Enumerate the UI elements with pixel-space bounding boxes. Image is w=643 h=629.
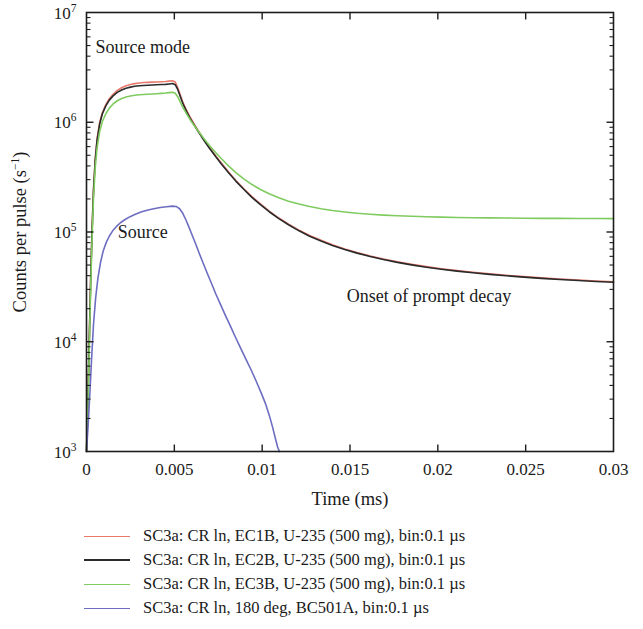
legend-item-label: SC3a: CR ln, EC3B, U-235 (500 mg), bin:0… [143,574,465,594]
x-tick-labels: 00.0050.010.0150.020.0250.03 [82,460,628,479]
legend-item[interactable]: SC3a: CR ln, 180 deg, BC501A, bin:0.1 µs [0,596,643,620]
series-line-3 [87,92,614,451]
series-line-4 [87,206,280,451]
legend-item[interactable]: SC3a: CR ln, EC1B, U-235 (500 mg), bin:0… [0,524,643,548]
y-tick-labels: 103104105106107 [54,2,77,462]
legend-item-label: SC3a: CR ln, EC2B, U-235 (500 mg), bin:0… [143,550,465,570]
series-line-1 [87,81,614,452]
y-tick-label: 107 [54,2,77,23]
x-tick-label: 0.02 [423,460,453,479]
legend-color-swatch [84,559,130,561]
annotation-3: Onset of prompt decay [347,286,511,306]
chart-plot: 00.0050.010.0150.020.0250.03 10310410510… [0,0,643,510]
x-tick-label: 0.005 [155,460,193,479]
y-axis-title: Counts per pulse (s−1) [9,152,31,313]
figure-container: 00.0050.010.0150.020.0250.03 10310410510… [0,0,643,629]
legend-item[interactable]: SC3a: CR ln, EC2B, U-235 (500 mg), bin:0… [0,548,643,572]
legend-color-swatch [84,536,130,537]
x-tick-label: 0.025 [507,460,545,479]
legend-item-label: SC3a: CR ln, EC1B, U-235 (500 mg), bin:0… [143,526,465,546]
y-tick-label: 105 [54,221,77,242]
x-tick-label: 0.015 [331,460,369,479]
plot-annotations: Source modeSourceOnset of prompt decay [95,37,511,306]
chart-legend: SC3a: CR ln, EC1B, U-235 (500 mg), bin:0… [0,524,643,629]
annotation-1: Source mode [95,37,189,57]
x-axis-title: Time (ms) [312,489,389,510]
y-tick-label: 103 [54,441,77,462]
y-tick-label: 104 [54,331,77,352]
x-tick-label: 0.03 [599,460,629,479]
annotation-2: Source [118,222,168,242]
legend-color-swatch [84,584,130,585]
x-tick-label: 0 [82,460,91,479]
x-tick-label: 0.01 [247,460,277,479]
y-tick-label: 106 [54,111,77,132]
legend-color-swatch [84,608,130,609]
legend-item[interactable]: SC3a: CR ln, EC3B, U-235 (500 mg), bin:0… [0,572,643,596]
series-line-2 [87,83,614,451]
legend-item-label: SC3a: CR ln, 180 deg, BC501A, bin:0.1 µs [143,598,429,618]
series-layer [87,81,614,452]
